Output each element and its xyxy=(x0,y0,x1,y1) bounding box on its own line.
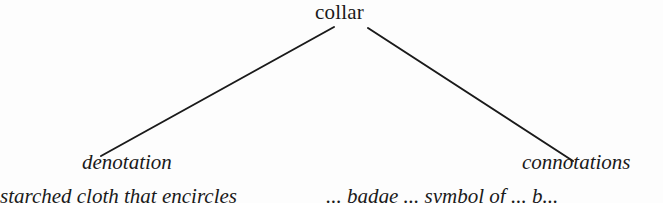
child-node-connotations: connotations xyxy=(522,150,631,174)
edge-collar-connotations xyxy=(368,28,573,161)
tree-diagram: collar denotation connotations starched … xyxy=(0,0,663,203)
denotation-gloss: starched cloth that encircles xyxy=(0,184,237,203)
child-node-denotation: denotation xyxy=(82,150,172,174)
connotations-gloss: ... badge ... symbol of ... b... xyxy=(326,184,558,203)
root-node-collar: collar xyxy=(315,0,364,24)
edge-collar-denotation xyxy=(101,27,334,156)
